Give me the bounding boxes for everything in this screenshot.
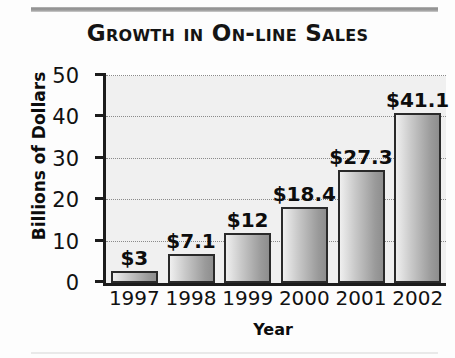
y-axis-tick-label: 10 bbox=[52, 230, 79, 254]
chart-title: Growth in On-line Sales bbox=[0, 20, 455, 46]
top-divider-rule bbox=[31, 7, 438, 12]
y-axis-tick: 10 bbox=[95, 239, 106, 242]
y-axis-tick: 40 bbox=[95, 114, 106, 117]
y-axis-title: Billions of Dollars bbox=[29, 46, 49, 266]
y-axis-tick: 50 bbox=[95, 73, 106, 76]
y-axis-tick: 20 bbox=[95, 197, 106, 200]
bar-value-label: $27.3 bbox=[329, 145, 392, 169]
x-axis-tick-label: 2001 bbox=[336, 286, 387, 310]
bar-value-label: $18.4 bbox=[273, 182, 336, 206]
y-axis-tick: 0 bbox=[95, 280, 106, 283]
y-axis-tick-label: 40 bbox=[52, 105, 79, 129]
x-axis-title: Year bbox=[103, 320, 443, 339]
x-axis-tick-label: 1999 bbox=[222, 286, 273, 310]
bar-value-label: $41.1 bbox=[386, 88, 449, 112]
bar-value-label: $7.1 bbox=[166, 229, 215, 253]
chart-figure: Growth in On-line Sales Billions of Doll… bbox=[0, 0, 455, 358]
x-axis-tick-label: 2000 bbox=[279, 286, 330, 310]
y-axis-tick-label: 30 bbox=[52, 147, 79, 171]
x-axis-tick-label: 2002 bbox=[392, 286, 443, 310]
bar-value-label: $12 bbox=[227, 208, 269, 232]
x-axis-tick-label: 1998 bbox=[166, 286, 217, 310]
bar[interactable]: $121999 bbox=[224, 233, 271, 283]
y-axis-tick-label: 0 bbox=[66, 271, 79, 295]
plot-area: 01020304050 $31997$7.11998$121999$18.420… bbox=[103, 76, 446, 286]
y-axis-tick-label: 50 bbox=[52, 64, 79, 88]
x-axis-tick-label: 1997 bbox=[109, 286, 160, 310]
bar[interactable]: $27.32001 bbox=[338, 170, 385, 283]
y-axis-tick-label: 20 bbox=[52, 188, 79, 212]
bar[interactable]: $31997 bbox=[111, 271, 158, 283]
bottom-divider-rule bbox=[31, 352, 438, 354]
bar[interactable]: $18.42000 bbox=[281, 207, 328, 283]
bar-value-label: $3 bbox=[120, 246, 148, 270]
gridline bbox=[106, 75, 446, 76]
y-axis-tick: 30 bbox=[95, 156, 106, 159]
bar[interactable]: $7.11998 bbox=[168, 254, 215, 283]
bar[interactable]: $41.12002 bbox=[394, 113, 441, 283]
